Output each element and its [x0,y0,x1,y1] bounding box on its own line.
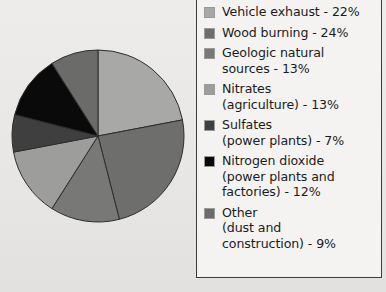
legend-color-swatch [204,48,215,59]
legend-item-label: Nitrogen dioxide (power plants and facto… [222,153,335,200]
legend-item-label: Geologic natural sources - 13% [222,45,324,76]
legend-item-label: Nitrates (agriculture) - 13% [222,81,339,112]
pie-chart-svg [8,46,188,226]
legend-item: Nitrogen dioxide (power plants and facto… [204,153,375,200]
legend-item: Sulfates (power plants) - 7% [204,117,375,148]
legend-item: Vehicle exhaust - 22% [204,4,375,20]
legend-item-list: Vehicle exhaust - 22%Wood burning - 24%G… [204,4,375,251]
pie-slice-group [12,50,184,222]
legend-item: Other (dust and construction) - 9% [204,205,375,252]
legend-item-label: Wood burning - 24% [222,25,348,41]
chart-canvas: Vehicle exhaust - 22%Wood burning - 24%G… [0,0,386,292]
legend-item-label: Vehicle exhaust - 22% [222,4,360,20]
legend-item-label: Other (dust and construction) - 9% [222,205,336,252]
chart-legend: Vehicle exhaust - 22%Wood burning - 24%G… [196,0,382,278]
legend-item: Nitrates (agriculture) - 13% [204,81,375,112]
legend-item: Wood burning - 24% [204,25,375,41]
legend-item-label: Sulfates (power plants) - 7% [222,117,344,148]
legend-color-swatch [204,7,215,18]
pie-chart [8,46,188,226]
legend-color-swatch [204,208,215,219]
legend-color-swatch [204,28,215,39]
legend-item: Geologic natural sources - 13% [204,45,375,76]
legend-color-swatch [204,84,215,95]
legend-color-swatch [204,156,215,167]
legend-color-swatch [204,120,215,131]
